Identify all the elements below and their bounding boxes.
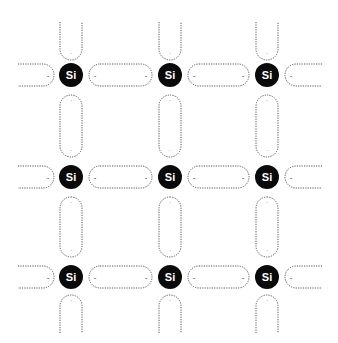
electron-mark: - — [47, 71, 50, 80]
electron-mark: - — [242, 273, 245, 282]
electron-mark: ˑ — [70, 97, 72, 106]
atom-label: Si — [165, 171, 175, 183]
electron-mark: ˑ — [266, 247, 268, 256]
electron-mark: - — [290, 273, 293, 282]
electron-mark: - — [290, 173, 293, 182]
electron-mark: - — [47, 173, 50, 182]
si-atom: Si — [158, 265, 182, 289]
electron-mark: - — [145, 273, 148, 282]
electron-mark: - — [290, 71, 293, 80]
electron-mark: ˑ — [70, 50, 72, 59]
atom-label: Si — [165, 271, 175, 283]
atom-label: Si — [66, 69, 76, 81]
bond-pill-horizontal — [89, 64, 152, 86]
electron-mark: ˑ — [169, 297, 171, 306]
si-atom: Si — [255, 63, 279, 87]
electron-mark: ˑ — [266, 297, 268, 306]
electron-mark: ˑ — [70, 199, 72, 208]
bond-pill-horizontal — [188, 266, 249, 288]
electron-mark: ˑ — [266, 97, 268, 106]
bond-pill-horizontal — [89, 166, 152, 188]
bond-pill-horizontal — [188, 64, 249, 86]
lattice-svg: ------------------ˑˑˑˑˑˑˑˑˑˑˑˑˑˑˑˑˑˑ SiS… — [0, 0, 338, 343]
electron-mark: - — [193, 71, 196, 80]
electron-mark: - — [94, 173, 97, 182]
electron-mark: - — [47, 273, 50, 282]
electron-mark: ˑ — [70, 297, 72, 306]
electron-mark: ˑ — [169, 50, 171, 59]
electron-mark: ˑ — [266, 147, 268, 156]
electron-mark: ˑ — [169, 247, 171, 256]
bond-pill-horizontal — [89, 266, 152, 288]
electron-mark: ˑ — [70, 247, 72, 256]
silicon-lattice-diagram: ------------------ˑˑˑˑˑˑˑˑˑˑˑˑˑˑˑˑˑˑ SiS… — [0, 0, 338, 343]
atom-label: Si — [262, 171, 272, 183]
electron-mark: - — [193, 273, 196, 282]
electron-mark: ˑ — [266, 199, 268, 208]
si-atom: Si — [255, 165, 279, 189]
electron-mark: - — [242, 173, 245, 182]
electron-mark: - — [145, 71, 148, 80]
electron-mark: - — [94, 71, 97, 80]
atom-label: Si — [66, 171, 76, 183]
atom-label: Si — [262, 69, 272, 81]
si-atom: Si — [59, 63, 83, 87]
electron-mark: ˑ — [169, 147, 171, 156]
si-atom: Si — [59, 165, 83, 189]
electron-mark: - — [145, 173, 148, 182]
atom-label: Si — [262, 271, 272, 283]
si-atom: Si — [59, 265, 83, 289]
si-atom: Si — [255, 265, 279, 289]
electron-mark: - — [242, 71, 245, 80]
si-atom: Si — [158, 165, 182, 189]
bond-pill-horizontal — [188, 166, 249, 188]
electron-mark: - — [94, 273, 97, 282]
si-atom: Si — [158, 63, 182, 87]
electron-mark: ˑ — [266, 50, 268, 59]
electron-mark: - — [193, 173, 196, 182]
atom-label: Si — [165, 69, 175, 81]
electron-mark: ˑ — [169, 97, 171, 106]
electron-mark: ˑ — [169, 199, 171, 208]
electron-mark: ˑ — [70, 147, 72, 156]
atom-label: Si — [66, 271, 76, 283]
